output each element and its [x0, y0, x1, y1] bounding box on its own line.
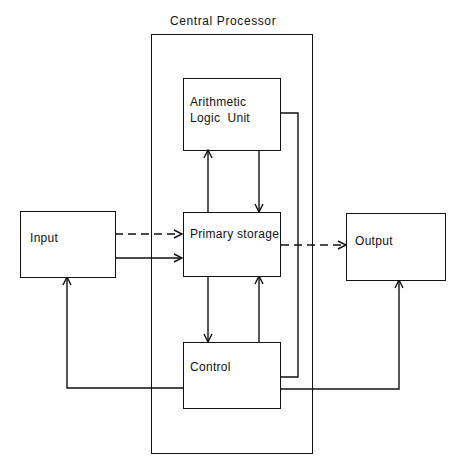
input-box: Input: [20, 211, 116, 278]
control-box: Control: [183, 342, 281, 409]
alu-label-line1: Arithmetic: [190, 95, 246, 110]
output-box: Output: [346, 213, 446, 281]
central-processor-title: Central Processor: [170, 14, 276, 28]
output-label: Output: [355, 234, 393, 249]
primary-storage-box: Primary storage: [183, 212, 281, 277]
control-label: Control: [190, 360, 231, 375]
alu-label-line2: Logic Unit: [190, 111, 250, 126]
primary-storage-label: Primary storage: [190, 227, 279, 242]
input-label: Input: [30, 231, 58, 246]
alu-box: Arithmetic Logic Unit: [183, 78, 281, 151]
